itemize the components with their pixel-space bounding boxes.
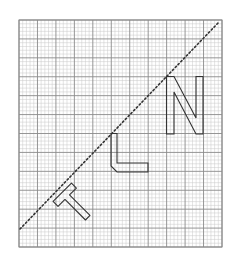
diagram-stage: Letters T, L, N on graph paper with diag… [0,0,236,255]
graph-paper-diagram [0,0,236,255]
